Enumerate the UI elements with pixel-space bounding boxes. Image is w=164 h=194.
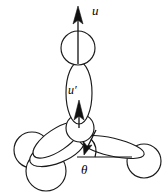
label-angle-theta: θ bbox=[81, 162, 87, 178]
molecular-diagram-figure: u u′ θ bbox=[0, 0, 164, 194]
label-top-vector: u bbox=[92, 3, 99, 19]
label-inner-vector: u′ bbox=[68, 83, 77, 98]
